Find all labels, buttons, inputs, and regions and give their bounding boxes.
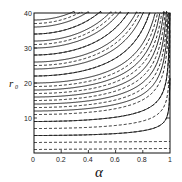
curve-family: [34, 11, 170, 149]
x-tick-0.8: 0.8: [137, 156, 147, 163]
x-tick-0.4: 0.4: [83, 156, 93, 163]
chart: 0 0.2 0.4 0.6 0.8 1 10 20 30 40 α r 0: [0, 0, 182, 182]
y-tick-40: 40: [24, 10, 32, 17]
x-tick-0.2: 0.2: [56, 156, 66, 163]
dashed-curve: [34, 149, 170, 150]
y-axis-label: r: [9, 77, 14, 89]
dashed-curve: [34, 142, 170, 143]
y-tick-30: 30: [24, 45, 32, 52]
dashed-curve: [34, 12, 141, 65]
x-tick-0: 0: [31, 156, 35, 163]
y-tick-10: 10: [24, 115, 32, 122]
dashed-curve: [34, 13, 169, 115]
solid-curve: [34, 12, 121, 48]
y-axis-label-subscript: 0: [15, 84, 18, 90]
x-tick-0.6: 0.6: [110, 156, 120, 163]
x-axis-label: α: [95, 164, 104, 180]
dashed-curve: [34, 29, 170, 129]
y-tick-20: 20: [24, 80, 32, 87]
dashed-curve: [34, 13, 166, 101]
plot-frame: [34, 13, 170, 153]
x-tick-1: 1: [168, 156, 172, 163]
